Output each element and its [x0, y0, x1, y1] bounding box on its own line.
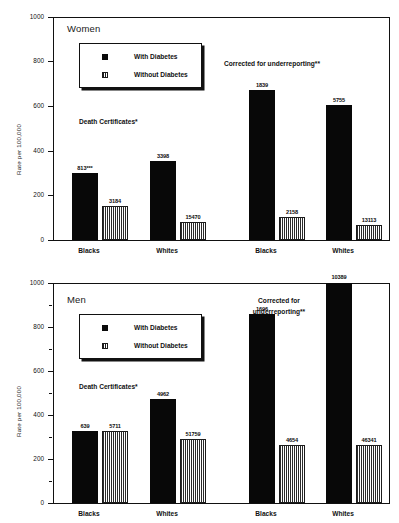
- y-tick-mark-minor: [49, 393, 52, 394]
- y-tick-mark-minor: [49, 481, 52, 482]
- legend-swatch-without-diabetes-icon: [102, 343, 108, 349]
- category-label-women-corr-blacks: Blacks: [246, 248, 286, 255]
- y-tick-mark-minor: [49, 437, 52, 438]
- group-title-corrected-women: Corrected for underreporting**: [224, 60, 320, 69]
- y-tick-label: 800: [18, 324, 44, 330]
- bar-men-dc-blacks-without: [102, 431, 128, 503]
- y-tick-label: 600: [18, 368, 44, 374]
- bar-value-label: 3184: [94, 199, 136, 205]
- bar-value-label: 13113: [348, 218, 390, 224]
- bar-men-corr-whites-without: [356, 445, 382, 503]
- bar-men-corr-blacks-with: [249, 314, 275, 503]
- bar-value-label: 46341: [348, 438, 390, 444]
- y-tick-label: 800: [18, 58, 44, 64]
- chart-panel-women: Rate per 100,000 1000 800 600 400 200 0 …: [0, 0, 399, 262]
- bar-value-label: 4654: [271, 438, 313, 444]
- legend-label-without-diabetes: Without Diabetes: [134, 342, 188, 349]
- bar-value-label: 15470: [172, 215, 214, 221]
- legend-women: With Diabetes Without Diabetes: [79, 43, 202, 88]
- panel-title-men: Men: [67, 294, 86, 305]
- bar-women-dc-blacks-without: [102, 206, 128, 240]
- category-label-men-dc-blacks: Blacks: [69, 511, 109, 518]
- bar-women-dc-blacks-with: [72, 173, 98, 240]
- bar-men-dc-blacks-with: [72, 431, 98, 503]
- legend-item-without-diabetes: Without Diabetes: [102, 342, 188, 349]
- category-label-men-dc-whites: Whites: [147, 511, 187, 518]
- chart-panel-men: Rate per 100,000 1000 800 600 400 200 0 …: [0, 262, 399, 523]
- legend-label-without-diabetes: Without Diabetes: [134, 71, 188, 78]
- category-label-women-dc-blacks: Blacks: [69, 248, 109, 255]
- category-label-women-corr-whites: Whites: [323, 248, 363, 255]
- panel-title-women: Women: [67, 23, 101, 34]
- y-tick-mark-minor: [49, 305, 52, 306]
- y-tick-label: 200: [18, 456, 44, 462]
- bar-women-corr-blacks-without: [279, 217, 305, 240]
- bar-value-label: 3398: [142, 154, 184, 160]
- bar-men-dc-whites-with: [150, 399, 176, 503]
- legend-item-with-diabetes: With Diabetes: [102, 53, 178, 60]
- bar-men-corr-whites-with: [326, 283, 352, 503]
- bar-value-label: 813***: [64, 166, 106, 172]
- bar-men-corr-blacks-without: [279, 445, 305, 503]
- bar-value-label: 1839: [241, 83, 283, 89]
- y-tick-label: 1000: [18, 14, 44, 20]
- legend-label-with-diabetes: With Diabetes: [134, 53, 178, 60]
- legend-swatch-with-diabetes-icon: [102, 325, 108, 331]
- bar-value-label: 4962: [142, 392, 184, 398]
- bar-value-label: 1696: [241, 307, 283, 313]
- group-title-corrected-men-line1: Corrected for: [234, 297, 324, 306]
- bar-men-dc-whites-without: [180, 439, 206, 503]
- y-tick-label: 200: [18, 192, 44, 198]
- legend-item-with-diabetes: With Diabetes: [102, 324, 178, 331]
- legend-swatch-with-diabetes-icon: [102, 54, 108, 60]
- bar-women-corr-blacks-with: [249, 90, 275, 240]
- bar-value-label: 2158: [271, 210, 313, 216]
- bar-value-label: 5711: [94, 424, 136, 430]
- plot-area-women: Women With Diabetes Without Diabetes Dea…: [53, 17, 390, 241]
- bar-value-label: 10389: [318, 275, 360, 281]
- bar-value-label: 5755: [318, 98, 360, 104]
- y-tick-label: 0: [18, 237, 44, 243]
- category-label-men-corr-blacks: Blacks: [246, 511, 286, 518]
- bar-women-dc-whites-without: [180, 222, 206, 240]
- group-title-death-certificates-women: Death Certificates*: [79, 118, 138, 127]
- figure-root: Rate per 100,000 1000 800 600 400 200 0 …: [0, 0, 399, 523]
- bar-women-dc-whites-with: [150, 161, 176, 240]
- bar-women-corr-whites-without: [356, 225, 382, 240]
- group-title-death-certificates-men: Death Certificates*: [79, 383, 138, 392]
- legend-label-with-diabetes: With Diabetes: [134, 324, 178, 331]
- category-label-men-corr-whites: Whites: [323, 511, 363, 518]
- y-tick-label: 400: [18, 148, 44, 154]
- legend-men: With Diabetes Without Diabetes: [79, 314, 202, 359]
- legend-swatch-without-diabetes-icon: [102, 72, 108, 78]
- y-tick-label: 400: [18, 412, 44, 418]
- plot-area-men: Men With Diabetes Without Diabetes Death…: [53, 283, 390, 504]
- bar-value-label: 51759: [172, 432, 214, 438]
- y-tick-mark-minor: [49, 349, 52, 350]
- y-tick-label: 0: [18, 500, 44, 506]
- y-tick-label: 1000: [18, 280, 44, 286]
- category-label-women-dc-whites: Whites: [147, 248, 187, 255]
- y-tick-label: 600: [18, 103, 44, 109]
- legend-item-without-diabetes: Without Diabetes: [102, 71, 188, 78]
